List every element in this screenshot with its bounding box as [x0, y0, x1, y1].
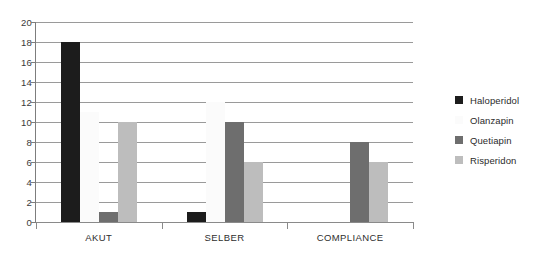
- bar-akut-quetiapin[interactable]: [99, 212, 118, 222]
- y-tick-label: 8: [4, 137, 32, 148]
- y-tick-label: 12: [4, 97, 32, 108]
- y-tick-label: 0: [4, 217, 32, 228]
- gridline: [36, 102, 413, 103]
- plot-area: [36, 22, 413, 222]
- gridline: [36, 42, 413, 43]
- legend-swatch-icon: [455, 136, 463, 144]
- legend-item-haloperidol[interactable]: Haloperidol: [455, 90, 540, 110]
- legend-item-quetiapin[interactable]: Quetiapin: [455, 130, 540, 150]
- y-tick-label: 16: [4, 57, 32, 68]
- bar-selber-risperidon[interactable]: [244, 162, 263, 222]
- y-axis-ticks: 20181614121086420: [0, 0, 32, 262]
- x-axis-label-compliance: COMPLIANCE: [317, 232, 384, 243]
- legend-label: Haloperidol: [470, 95, 519, 106]
- bar-selber-haloperidol[interactable]: [187, 212, 206, 222]
- x-axis-label-akut: AKUT: [85, 232, 112, 243]
- y-tick-label: 10: [4, 117, 32, 128]
- gridline: [36, 82, 413, 83]
- y-tick-label: 18: [4, 37, 32, 48]
- bar-selber-quetiapin[interactable]: [225, 122, 244, 222]
- legend-swatch-icon: [455, 116, 463, 124]
- bar-selber-olanzapin[interactable]: [206, 102, 225, 222]
- legend-label: Olanzapin: [470, 115, 514, 126]
- legend-item-olanzapin[interactable]: Olanzapin: [455, 110, 540, 130]
- legend-swatch-icon: [455, 156, 463, 164]
- bar-chart: 20181614121086420 AKUTSELBERCOMPLIANCE H…: [0, 0, 540, 262]
- bar-compliance-quetiapin[interactable]: [350, 142, 369, 222]
- y-tick-label: 2: [4, 197, 32, 208]
- bar-akut-olanzapin[interactable]: [80, 112, 99, 222]
- bar-compliance-risperidon[interactable]: [369, 162, 388, 222]
- y-tick-label: 6: [4, 157, 32, 168]
- gridline: [36, 62, 413, 63]
- bar-akut-risperidon[interactable]: [118, 122, 137, 222]
- x-axis-tick: [287, 222, 288, 229]
- bar-akut-haloperidol[interactable]: [61, 42, 80, 222]
- x-axis-tick: [36, 222, 37, 229]
- y-tick-label: 14: [4, 77, 32, 88]
- axis-baseline: [36, 222, 413, 223]
- legend-swatch-icon: [455, 96, 463, 104]
- legend-item-risperidon[interactable]: Risperidon: [455, 150, 540, 170]
- x-axis-tick: [162, 222, 163, 229]
- x-axis-tick: [413, 222, 414, 229]
- y-tick-label: 20: [4, 17, 32, 28]
- chart-legend: HaloperidolOlanzapinQuetiapinRisperidon: [455, 90, 540, 170]
- gridline: [36, 22, 413, 23]
- legend-label: Risperidon: [470, 155, 516, 166]
- legend-label: Quetiapin: [470, 135, 512, 146]
- x-axis-label-selber: SELBER: [205, 232, 245, 243]
- y-tick-label: 4: [4, 177, 32, 188]
